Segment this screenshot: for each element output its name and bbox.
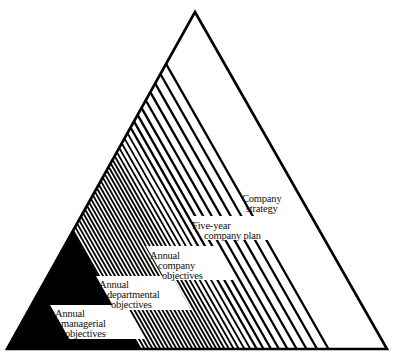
label-line: objectives (99, 300, 159, 310)
label-annual-departmental-objectives: Annual departmental objectives (99, 280, 159, 310)
label-annual-managerial-objectives: Annual managerial objectives (55, 309, 106, 339)
label-line: company plan (192, 231, 261, 241)
label-annual-company-objectives: Annual company objectives (150, 251, 203, 281)
label-five-year-company-plan: Five-year company plan (192, 221, 261, 241)
objectives-pyramid-diagram (0, 0, 394, 358)
label-line: objectives (55, 329, 106, 339)
label-company-strategy: Company strategy (242, 194, 281, 214)
label-line: strategy (242, 204, 281, 214)
